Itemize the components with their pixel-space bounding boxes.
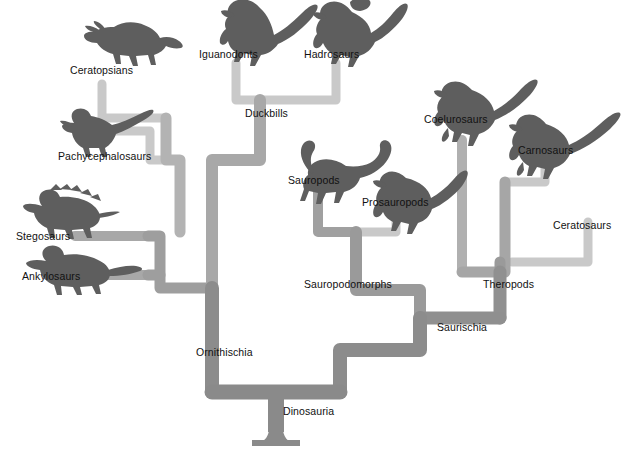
label-theropods: Theropods — [483, 278, 534, 290]
branch-ceratopsians — [102, 84, 166, 118]
branch-iguanodonts — [236, 63, 258, 100]
label-saurischia: Saurischia — [437, 321, 487, 333]
label-sauropodomorphs: Sauropodomorphs — [304, 278, 392, 290]
label-dinosauria: Dinosauria — [283, 405, 334, 417]
branch-saurischia — [340, 318, 420, 392]
label-carnosaurs: Carnosaurs — [518, 144, 573, 156]
label-coelurosaurs: Coelurosaurs — [424, 113, 488, 125]
label-duckbills: Duckbills — [245, 107, 288, 119]
label-ceratopsians: Ceratopsians — [70, 64, 133, 76]
label-prosauropods: Prosauropods — [362, 196, 429, 208]
label-hadrosaurs: Hadrosaurs — [304, 48, 359, 60]
label-sauropods: Sauropods — [288, 174, 340, 186]
branch-sauropodomorphs — [356, 232, 420, 318]
tree-branches — [75, 63, 588, 446]
branch-hadrosaurs — [262, 63, 336, 100]
label-ankylosaurs: Ankylosaurs — [22, 270, 80, 282]
branch-marginocephalia — [166, 118, 180, 232]
branch-duckbills — [212, 100, 260, 288]
tree-base-foot — [252, 440, 300, 446]
label-ornithischia: Ornithischia — [196, 346, 253, 358]
label-stegosaurs: Stegosaurs — [16, 230, 70, 242]
label-iguanodonts: Iguanodonts — [199, 48, 258, 60]
label-ceratosaurs: Ceratosaurs — [553, 219, 611, 231]
ceratopsians-silhouette — [84, 21, 183, 66]
label-pachycephalosaurs: Pachycephalosaurs — [58, 150, 151, 162]
